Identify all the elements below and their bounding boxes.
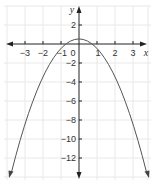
x-tick-label: 2 (112, 48, 117, 58)
y-axis-up-arrow-icon (77, 6, 82, 13)
y-axis-label: y (69, 4, 75, 15)
x-tick-label: 1 (95, 48, 100, 58)
y-tick-label: −8 (66, 115, 76, 125)
y-tick-label: −2 (66, 58, 76, 68)
y-tick-label: −12 (61, 153, 76, 163)
y-tick-label: 2 (71, 20, 76, 30)
parabola-graph: −3 −2 −1 0 1 2 3 x y 2 −2 −4 −6 −8 −10 −… (0, 0, 151, 182)
grid (4, 6, 151, 180)
x-axis (9, 41, 144, 44)
y-tick-label: −10 (61, 134, 76, 144)
origin-label: 0 (70, 48, 75, 58)
y-axis (79, 10, 82, 176)
x-tick-label: −3 (20, 48, 30, 58)
x-tick-label: −1 (57, 48, 67, 58)
y-tick-label: −6 (66, 96, 76, 106)
x-tick-label: 3 (130, 48, 135, 58)
y-tick-label: −4 (66, 77, 76, 87)
x-tick-label: −2 (38, 48, 48, 58)
x-axis-right-arrow-icon (140, 42, 147, 47)
y-axis-down-arrow-icon (77, 172, 82, 179)
x-axis-label: x (143, 47, 149, 58)
